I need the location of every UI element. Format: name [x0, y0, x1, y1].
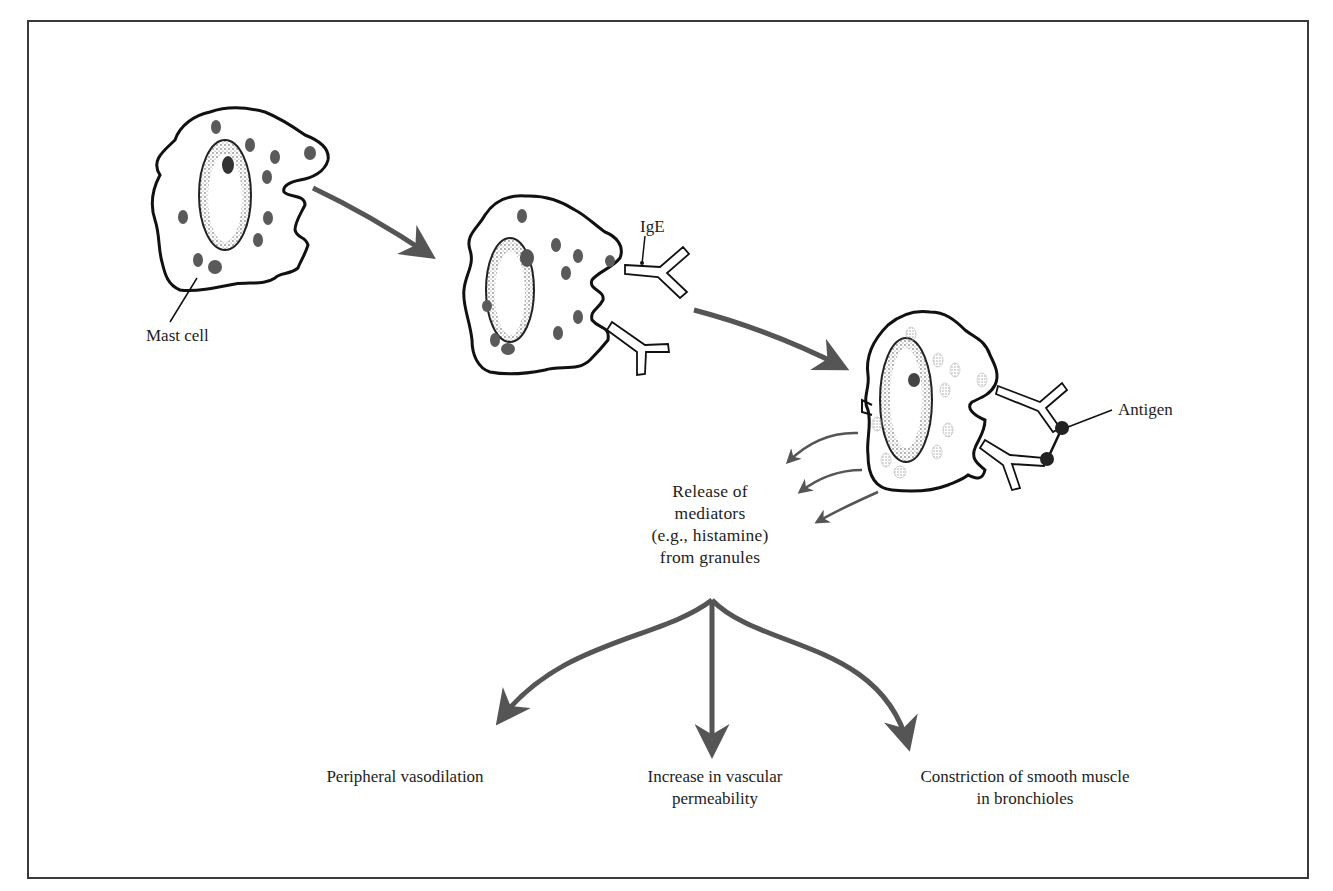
nucleolus: [222, 156, 234, 174]
effect-vasodilation: Peripheral vasodilation: [275, 766, 535, 788]
mediator-release-line: Release of: [600, 480, 820, 502]
degranulating-cell-illustration: [862, 312, 1069, 492]
effect-line: Increase in vascular: [585, 766, 845, 788]
nucleolus: [908, 373, 920, 387]
ige-antibody: [625, 247, 689, 298]
effect-bronchoconstriction: Constriction of smooth muscle in bronchi…: [875, 766, 1175, 810]
arrow-to-bronchoconstriction: [712, 600, 908, 745]
mast-cell-illustration: [152, 108, 328, 291]
mediator-release-text: Release of mediators (e.g., histamine) f…: [600, 480, 820, 568]
diagram-artwork: [0, 0, 1333, 891]
effect-arrows: [500, 600, 908, 752]
progression-arrow-1: [313, 188, 430, 255]
antigen-label: Antigen: [1118, 399, 1173, 420]
effect-line: in bronchioles: [875, 788, 1175, 810]
arrow-to-vasodilation: [500, 600, 712, 720]
ige-antibody: [980, 440, 1045, 490]
nucleolus: [520, 249, 534, 267]
mast-cell-label: Mast cell: [146, 325, 209, 346]
mediator-release-line: from granules: [600, 546, 820, 568]
ige-label: IgE: [640, 216, 665, 237]
mediator-release-line: (e.g., histamine): [600, 524, 820, 546]
ige-antibody: [607, 322, 669, 375]
effect-line: Peripheral vasodilation: [275, 766, 535, 788]
effect-line: permeability: [585, 788, 845, 810]
antigen-leader-line: [1068, 410, 1112, 427]
mediator-release-line: mediators: [600, 502, 820, 524]
progression-arrow-2: [694, 310, 843, 367]
effect-permeability: Increase in vascular permeability: [585, 766, 845, 810]
ige-leader-line: [642, 236, 645, 264]
effect-line: Constriction of smooth muscle: [875, 766, 1175, 788]
